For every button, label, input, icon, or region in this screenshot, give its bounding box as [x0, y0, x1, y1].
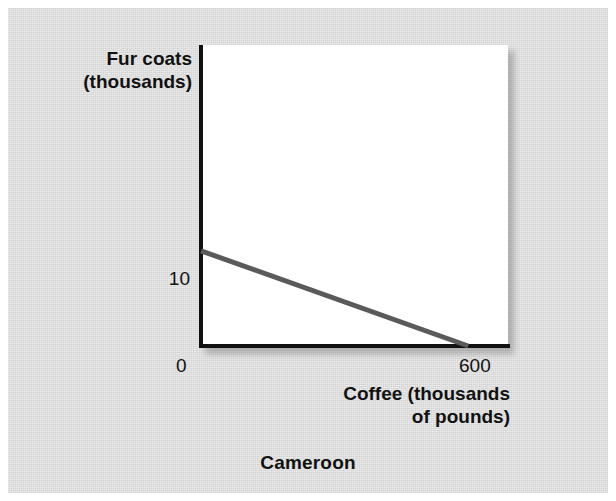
y-axis-tick-label-10: 10 — [169, 268, 190, 290]
ppf-line — [201, 251, 468, 346]
x-axis-tick-label-0: 0 — [176, 355, 187, 377]
x-axis-title: Coffee (thousands of pounds) — [196, 382, 510, 428]
figure-container: Fur coats (thousands) Coffee (thousands … — [0, 0, 616, 501]
figure-caption: Cameroon — [0, 452, 616, 474]
ppf-curve-layer — [199, 45, 510, 350]
y-axis-title: Fur coats (thousands) — [0, 47, 192, 93]
x-axis-tick-label-600: 600 — [459, 355, 491, 377]
